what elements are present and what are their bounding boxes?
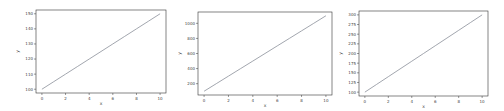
x-tick-label: 4 bbox=[410, 99, 413, 104]
y-tick-label: 100 bbox=[348, 90, 356, 95]
y-tick-label: 800 bbox=[187, 36, 195, 41]
chart-linear-slope-5: 0246810100110120130140150xy bbox=[0, 0, 168, 111]
x-tick-label: 6 bbox=[434, 99, 437, 104]
x-tick-label: 0 bbox=[41, 96, 44, 101]
y-tick-label: 300 bbox=[348, 12, 356, 17]
chart-svg: 02468102004006008001000xy bbox=[168, 0, 336, 111]
chart-svg: 0246810100110120130140150xy bbox=[0, 0, 168, 111]
y-tick-label: 150 bbox=[348, 70, 356, 75]
x-tick-label: 2 bbox=[64, 96, 67, 101]
chart-svg: 0246810100125150175200225250275300xy bbox=[336, 0, 504, 111]
x-axis-label: x bbox=[422, 104, 425, 109]
y-tick-label: 275 bbox=[348, 22, 356, 27]
y-tick-label: 400 bbox=[187, 66, 195, 71]
x-tick-label: 4 bbox=[252, 98, 255, 103]
x-axis-label: x bbox=[264, 103, 267, 108]
x-tick-label: 6 bbox=[276, 98, 279, 103]
chart-linear-slope-100: 02468102004006008001000xy bbox=[168, 0, 336, 111]
x-tick-label: 10 bbox=[323, 98, 329, 103]
x-tick-label: 0 bbox=[203, 98, 206, 103]
x-tick-label: 4 bbox=[88, 96, 91, 101]
y-tick-label: 110 bbox=[25, 72, 33, 77]
x-tick-label: 8 bbox=[300, 98, 303, 103]
y-axis-label: y bbox=[177, 52, 182, 55]
y-tick-label: 150 bbox=[25, 11, 33, 16]
y-tick-label: 250 bbox=[348, 32, 356, 37]
x-tick-label: 2 bbox=[387, 99, 390, 104]
x-tick-label: 10 bbox=[158, 96, 164, 101]
y-tick-label: 175 bbox=[348, 61, 356, 66]
x-tick-label: 8 bbox=[457, 99, 460, 104]
x-tick-label: 2 bbox=[227, 98, 230, 103]
y-tick-label: 125 bbox=[348, 80, 356, 85]
x-tick-label: 10 bbox=[480, 99, 486, 104]
y-tick-label: 600 bbox=[187, 51, 195, 56]
x-tick-label: 0 bbox=[364, 99, 367, 104]
y-tick-label: 100 bbox=[25, 87, 33, 92]
y-tick-label: 120 bbox=[25, 56, 33, 61]
chart-linear-slope-20: 0246810100125150175200225250275300xy bbox=[336, 0, 504, 111]
y-tick-label: 200 bbox=[187, 81, 195, 86]
y-tick-label: 200 bbox=[348, 51, 356, 56]
y-tick-label: 1000 bbox=[185, 21, 196, 26]
y-tick-label: 225 bbox=[348, 41, 356, 46]
y-tick-label: 130 bbox=[25, 41, 33, 46]
x-tick-label: 8 bbox=[135, 96, 138, 101]
y-axis-label: y bbox=[15, 50, 20, 53]
y-tick-label: 140 bbox=[25, 26, 33, 31]
x-axis-label: x bbox=[100, 101, 103, 106]
x-tick-label: 6 bbox=[112, 96, 115, 101]
y-axis-label: y bbox=[338, 52, 343, 55]
